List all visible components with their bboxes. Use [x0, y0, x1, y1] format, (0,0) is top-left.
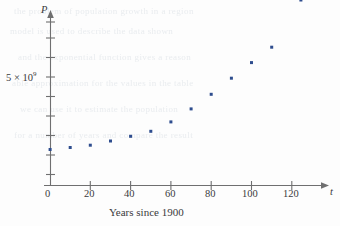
x-axis-tick-label-20: 20 — [84, 188, 95, 199]
data-point-clipped — [299, 0, 302, 2]
data-point — [190, 107, 193, 110]
figure-caption: Years since 1900 — [109, 206, 184, 218]
y-tick-mantissa: 5 × 10 — [6, 72, 33, 83]
x-axis-tick-label-0: 0 — [45, 188, 50, 199]
data-point — [210, 93, 213, 96]
y-axis-name-label: P — [41, 4, 47, 15]
x-axis-tick-label-80: 80 — [205, 188, 216, 199]
data-point — [250, 61, 253, 64]
x-axis-tick-label-60: 60 — [165, 188, 176, 199]
x-axis-arrowhead — [321, 182, 329, 189]
data-point — [230, 77, 233, 80]
y-tick-exponent: 9 — [33, 70, 37, 78]
x-axis-tick-label-100: 100 — [242, 188, 258, 199]
data-point — [89, 144, 92, 147]
data-point — [270, 46, 273, 49]
y-axis-tick-label: 5 × 109 — [6, 70, 36, 83]
x-axis-name-label: t — [330, 186, 333, 197]
figure-canvas: the problem of population growth in a re… — [0, 0, 340, 226]
data-point — [169, 120, 172, 123]
data-point-group — [49, 0, 303, 151]
x-axis-tick-label-120: 120 — [283, 188, 299, 199]
data-point — [129, 135, 132, 138]
x-axis-tick-label-40: 40 — [124, 188, 135, 199]
y-axis-arrowhead — [47, 10, 54, 18]
data-point — [49, 148, 52, 151]
data-point — [149, 130, 152, 133]
data-point — [109, 140, 112, 143]
data-point — [69, 146, 72, 149]
